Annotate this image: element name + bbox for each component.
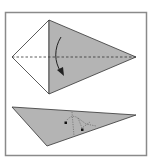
- origami-diagram: [0, 0, 151, 158]
- reference-dot-1: [65, 122, 68, 125]
- reference-dot-2: [81, 129, 84, 132]
